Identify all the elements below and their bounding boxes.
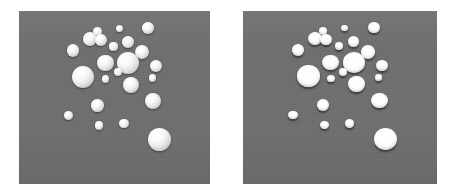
blob (368, 22, 380, 33)
right-panel-lighting-gradient (243, 11, 437, 184)
blob (114, 68, 122, 76)
figure-canvas (0, 0, 454, 196)
blob (64, 111, 73, 120)
blob (122, 36, 133, 47)
blob (150, 60, 162, 72)
blob (149, 74, 156, 81)
left-panel-lighting-gradient (19, 11, 210, 184)
blob (375, 74, 382, 81)
blob (297, 65, 320, 86)
blob (288, 111, 297, 120)
blob (376, 60, 388, 72)
blob (320, 34, 332, 45)
blob (116, 25, 123, 32)
blob (95, 121, 103, 129)
blob (102, 75, 110, 83)
blob (72, 66, 94, 88)
left-panel-smooth-spheres (19, 11, 210, 184)
blob (317, 99, 330, 111)
blob (91, 99, 104, 112)
blob (142, 22, 153, 33)
blob (123, 77, 139, 93)
blob (67, 44, 79, 56)
blob (345, 119, 355, 128)
blob (109, 42, 117, 50)
blob (322, 55, 339, 71)
blob (371, 93, 388, 109)
blob (148, 128, 171, 151)
blob (292, 44, 304, 56)
blob (335, 42, 343, 50)
right-panel-flat-discs (243, 11, 437, 184)
blob (348, 76, 364, 91)
blob (95, 34, 107, 46)
blob (327, 75, 335, 82)
blob (374, 128, 398, 150)
blob (320, 121, 329, 129)
blob (348, 36, 360, 47)
blob (339, 68, 347, 75)
blob (97, 55, 113, 71)
left-panel-noise-texture (19, 11, 210, 184)
blob (145, 93, 161, 109)
blob (341, 25, 348, 32)
blob (119, 119, 128, 128)
right-panel-noise-texture (243, 11, 437, 184)
